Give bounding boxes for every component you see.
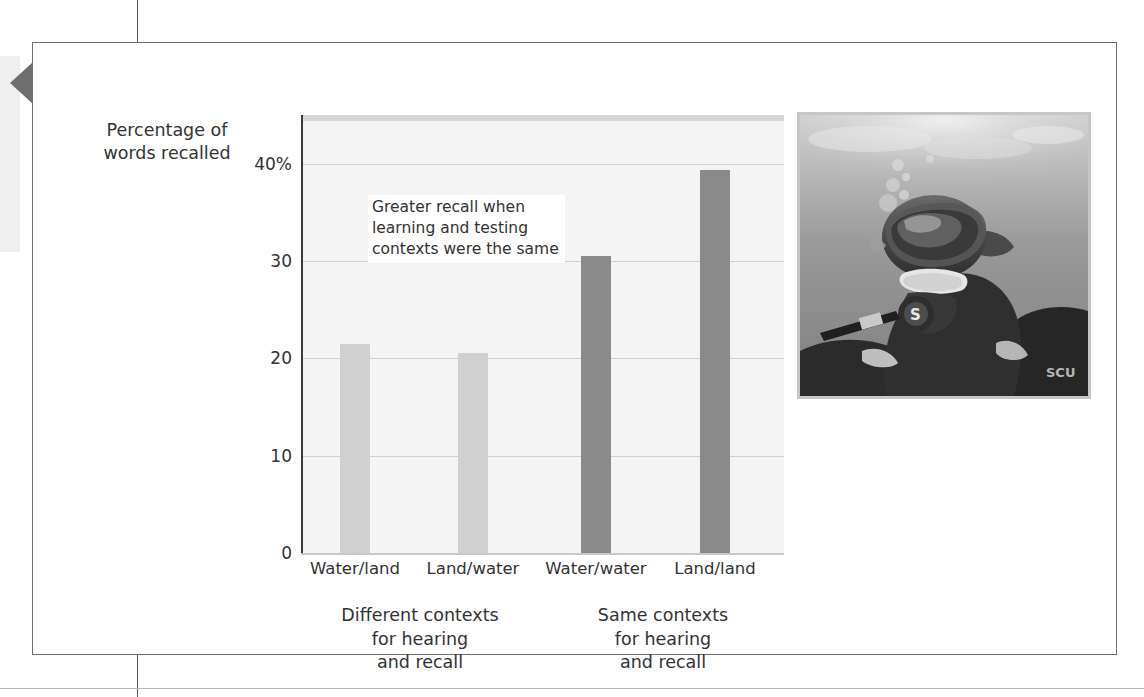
y-tick-label-30: 30 (222, 251, 292, 271)
bar-water-land (340, 344, 370, 553)
bar-land-land (700, 170, 730, 553)
y-tick-label-20: 20 (222, 348, 292, 368)
y-tick-label-40%: 40% (222, 154, 292, 174)
bar-chart: Greater recall when learning and testing… (302, 115, 784, 553)
bar-water-water (581, 256, 611, 553)
x-axis-labels: Water/landLand/waterWater/waterLand/land (283, 559, 803, 585)
plot-area (302, 115, 784, 553)
vertical-rule-top (137, 0, 138, 42)
plot-top-band (302, 115, 784, 121)
scuba-diver-photo: S SCU (797, 112, 1091, 399)
vertical-rule-bottom (137, 655, 138, 697)
y-tick-label-0: 0 (222, 543, 292, 563)
y-tick-label-10: 10 (222, 446, 292, 466)
left-triangle-pointer-icon (10, 62, 33, 104)
bar-land-water (458, 353, 488, 554)
x-tick-label-land-water: Land/water (403, 559, 543, 578)
y-axis-line (301, 115, 303, 553)
y-axis-tick-labels: 010203040% (222, 115, 292, 553)
scuba-diver-photo-image: S SCU (800, 115, 1088, 396)
gridline-40 (302, 164, 784, 165)
x-axis-line (301, 553, 784, 555)
chart-annotation: Greater recall when learning and testing… (368, 195, 565, 263)
horizontal-rule-bottom (0, 688, 1144, 689)
x-tick-label-land-land: Land/land (645, 559, 785, 578)
group-label-same-contexts: Same contexts for hearing and recall (538, 604, 788, 675)
group-label-different-contexts: Different contexts for hearing and recal… (295, 604, 545, 675)
svg-text:S: S (910, 306, 921, 324)
photo-credit-holder: Fred McConnaughey/Photo Researchers (1063, 140, 1079, 380)
figure-frame: Percentage of words recalled 010203040% … (32, 42, 1117, 655)
